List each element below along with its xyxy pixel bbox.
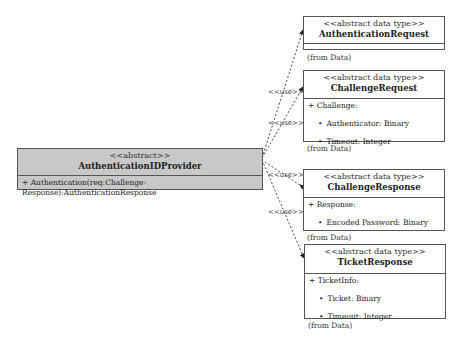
class-name: AuthenticationRequest xyxy=(304,29,444,40)
class-header: <<abstract>> AuthenticationIDProvider xyxy=(18,149,262,176)
class-header: <<abstract data type>> ChallengeRequest xyxy=(304,71,444,99)
stereotype-label: <<abstract data type>> xyxy=(304,71,444,83)
stereotype-label: <<abstract data type>> xyxy=(304,17,444,29)
class-attributes: + TicketInfo: Ticket: Binary Timeout: In… xyxy=(305,274,445,324)
class-authentication-request[interactable]: <<abstract data type>> AuthenticationReq… xyxy=(303,16,445,50)
stereotype-label: <<abstract data type>> xyxy=(305,245,445,257)
origin-label: (from Data) xyxy=(308,321,352,330)
class-header: <<abstract data type>> TicketResponse xyxy=(305,245,445,274)
use-label-2: <<use>> xyxy=(268,119,304,127)
operation-authentication: + Authentication(req:Challenge-Response)… xyxy=(22,178,258,198)
origin-label: (from Data) xyxy=(307,233,351,242)
use-label-1: <<use>> xyxy=(268,88,304,96)
class-name: ChallengeRequest xyxy=(304,83,444,94)
class-name: AuthenticationIDProvider xyxy=(18,161,262,172)
class-operations: + Authentication(req:Challenge-Response)… xyxy=(18,176,262,200)
class-ticket-response[interactable]: <<abstract data type>> TicketResponse + … xyxy=(304,244,446,319)
use-label-4: <<use>> xyxy=(268,208,304,216)
attribute-challenge: + Challenge: xyxy=(308,101,440,111)
field-encoded-password: Encoded Password: Binary xyxy=(308,218,440,228)
class-challenge-request[interactable]: <<abstract data type>> ChallengeRequest … xyxy=(303,70,445,142)
class-header: <<abstract data type>> AuthenticationReq… xyxy=(304,17,444,44)
field-authenticator: Authenticator: Binary xyxy=(308,119,440,129)
field-ticket: Ticket: Binary xyxy=(309,294,441,304)
attribute-response: + Response: xyxy=(308,200,440,210)
stereotype-label: <<abstract>> xyxy=(18,149,262,161)
class-challenge-response[interactable]: <<abstract data type>> ChallengeResponse… xyxy=(303,169,445,231)
class-authentication-id-provider[interactable]: <<abstract>> AuthenticationIDProvider + … xyxy=(17,148,263,190)
origin-label: (from Data) xyxy=(307,53,351,62)
class-attributes: + Challenge: Authenticator: Binary Timeo… xyxy=(304,99,444,149)
use-label-3: <<use>> xyxy=(268,171,304,179)
class-attributes: + Response: Encoded Password: Binary xyxy=(304,198,444,230)
class-name: TicketResponse xyxy=(305,257,445,268)
class-name: ChallengeResponse xyxy=(304,182,444,193)
stereotype-label: <<abstract data type>> xyxy=(304,170,444,182)
origin-label: (from Data) xyxy=(307,144,351,153)
class-header: <<abstract data type>> ChallengeResponse xyxy=(304,170,444,198)
attribute-ticketinfo: + TicketInfo: xyxy=(309,276,441,286)
